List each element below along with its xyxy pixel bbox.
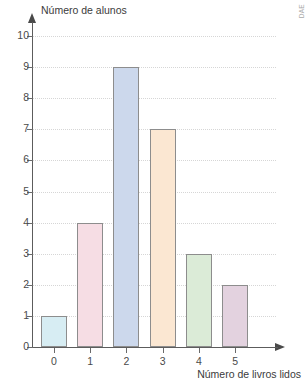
x-axis-tick-label: 2 <box>111 355 141 367</box>
x-axis-tick <box>163 348 164 353</box>
gridline <box>33 36 276 37</box>
bar-4 <box>186 254 212 347</box>
x-axis-tick-label: 1 <box>75 355 105 367</box>
y-axis-tick-label: 2 <box>0 279 29 290</box>
y-axis-tick-label: 6 <box>0 154 29 165</box>
y-axis-tick-label: 0 <box>0 341 29 352</box>
y-axis-tick-label: 3 <box>0 248 29 259</box>
x-axis-tick <box>126 348 127 353</box>
y-axis-line <box>32 22 33 348</box>
bar-chart: DAE Número de alunos 012345678910 012345… <box>0 0 307 383</box>
x-axis-tick-label: 5 <box>220 355 250 367</box>
y-axis-tick-label: 4 <box>0 217 29 228</box>
x-axis-tick <box>235 348 236 353</box>
bar-5 <box>222 285 248 347</box>
y-axis-tick-label: 1 <box>0 310 29 321</box>
x-axis-tick-label: 4 <box>184 355 214 367</box>
y-axis-tick-label: 10 <box>0 30 29 41</box>
y-axis-tick-label: 5 <box>0 186 29 197</box>
x-axis-tick-label: 3 <box>148 355 178 367</box>
y-axis-tick-label: 9 <box>0 61 29 72</box>
bar-3 <box>150 129 176 347</box>
gridline <box>33 67 276 68</box>
x-axis-tick <box>199 348 200 353</box>
x-axis-tick <box>90 348 91 353</box>
y-axis-tick-label: 8 <box>0 92 29 103</box>
bar-2 <box>113 67 139 347</box>
bar-1 <box>77 223 103 347</box>
y-axis-tick-label: 7 <box>0 123 29 134</box>
plot-area: 012345678910 012345 <box>0 0 307 383</box>
x-axis-tick <box>54 348 55 353</box>
x-axis-tick-label: 0 <box>39 355 69 367</box>
x-axis-title: Número de livros lidos <box>197 368 301 380</box>
bar-0 <box>41 316 67 347</box>
gridline <box>33 98 276 99</box>
x-axis-line <box>32 347 278 348</box>
